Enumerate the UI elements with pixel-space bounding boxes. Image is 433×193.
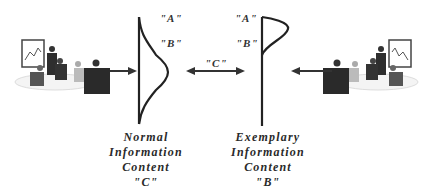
left-label-a: "A" [160,12,183,24]
caption-normal-information-content: Normal Information Content "C" [98,130,194,190]
caption-line: Exemplary [220,130,316,145]
caption-line: "C" [98,175,194,190]
diagram-canvas [0,0,433,193]
caption-exemplary-information-content: Exemplary Information Content "B" [220,130,316,190]
business-meeting-illustration-right [323,40,418,94]
caption-line: Information [98,145,194,160]
normal-distribution-curve [139,17,168,124]
right-label-b: "B" [236,37,259,49]
caption-line: Content [98,160,194,175]
arrow-left-to-curve [110,67,137,75]
caption-line: Information [220,145,316,160]
exemplary-distribution-curve [262,17,288,126]
caption-line: Normal [98,130,194,145]
right-label-a: "A" [235,12,258,24]
caption-line: "B" [220,175,316,190]
caption-line: Content [220,160,316,175]
left-label-b: "B" [160,37,183,49]
middle-label-c: "C" [205,57,228,69]
business-meeting-illustration-left [15,40,110,94]
